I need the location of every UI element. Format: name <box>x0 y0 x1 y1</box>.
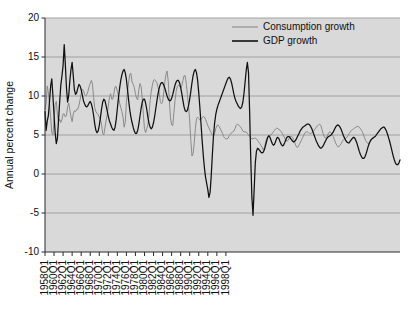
x-axis-tick-labels: 1958Q11960Q11962Q11964Q11966Q11968Q11970… <box>39 260 231 296</box>
y-tick-label-5: 5 <box>33 129 39 140</box>
y-tick-label-20: 20 <box>28 12 40 23</box>
chart-figure: 20151050-5-10 1958Q11960Q11962Q11964Q119… <box>0 0 412 310</box>
y-tick-label-0: 0 <box>33 168 39 179</box>
legend-label-consumption-growth: Consumption growth <box>263 21 355 32</box>
y-tick-label-15: 15 <box>28 51 40 62</box>
y-tick-label--5: -5 <box>30 207 39 218</box>
chart-svg: 20151050-5-10 1958Q11960Q11962Q11964Q119… <box>0 0 412 310</box>
y-axis-title: Annual percent change <box>3 81 15 189</box>
y-tick-label-10: 10 <box>28 90 40 101</box>
x-axis-ticks <box>45 252 226 256</box>
x-tick-label-1998Q1: 1998Q1 <box>220 260 231 296</box>
legend-label-gdp-growth: GDP growth <box>263 35 317 46</box>
y-tick-label--10: -10 <box>25 246 40 257</box>
